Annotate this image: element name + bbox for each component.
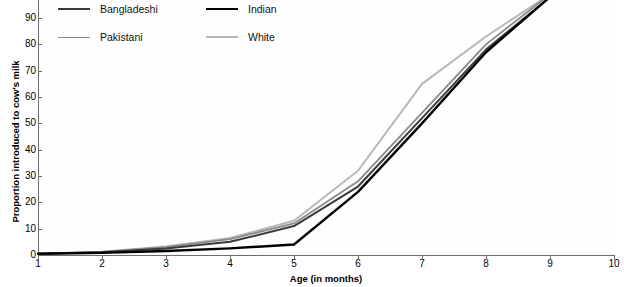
x-tick-mark	[358, 255, 359, 260]
legend-item-pakistani[interactable]: Pakistani	[58, 28, 143, 46]
x-tick-mark	[38, 255, 39, 260]
legend-line-icon	[206, 36, 238, 38]
legend-line-icon	[206, 8, 238, 10]
legend-line-icon	[58, 8, 90, 10]
legend-label: Bangladeshi	[100, 3, 158, 15]
x-tick-mark	[614, 255, 615, 260]
legend-label: Pakistani	[100, 31, 143, 43]
legend-item-indian[interactable]: Indian	[206, 0, 277, 18]
x-axis-title: Age (in months)	[38, 273, 614, 284]
x-tick-mark	[422, 255, 423, 260]
x-tick-mark	[294, 255, 295, 260]
x-tick-mark	[230, 255, 231, 260]
legend-label: Indian	[248, 3, 277, 15]
legend-item-bangladeshi[interactable]: Bangladeshi	[58, 0, 158, 18]
legend: Bangladeshi Indian Pakistani White	[58, 0, 358, 47]
legend-line-icon	[58, 37, 90, 38]
x-tick-mark	[166, 255, 167, 260]
x-tick-label: 10	[599, 258, 624, 269]
legend-item-white[interactable]: White	[206, 28, 275, 46]
x-tick-mark	[550, 255, 551, 260]
x-tick-mark	[486, 255, 487, 260]
x-tick-mark	[102, 255, 103, 260]
legend-label: White	[248, 31, 275, 43]
